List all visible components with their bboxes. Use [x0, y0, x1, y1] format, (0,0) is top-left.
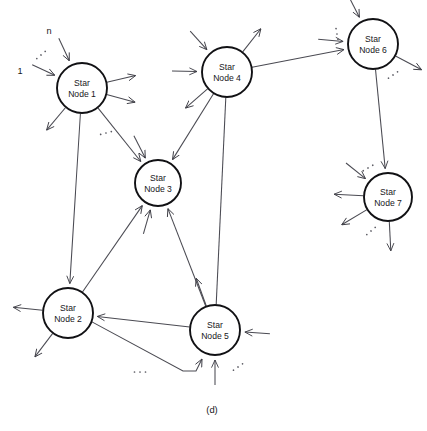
edge-node5-node2	[97, 316, 189, 327]
ellipsis-dot	[237, 366, 239, 368]
star-node-5[interactable]: StarNode 5	[190, 305, 240, 355]
ellipsis-dot	[396, 71, 398, 73]
stub-node3-in-s1	[143, 210, 150, 234]
star-node-4[interactable]: StarNode 4	[202, 47, 252, 97]
ellipsis-dot	[370, 230, 372, 232]
figure-caption: (d)	[206, 404, 217, 415]
ellipsis-dot	[139, 371, 141, 373]
ellipsis-dot	[110, 131, 112, 133]
ellipsis-node5-out	[232, 363, 243, 372]
ellipsis-dot	[40, 54, 42, 56]
star-node-1[interactable]: StarNode 1	[57, 63, 107, 113]
stub-node4-in-w	[172, 71, 197, 72]
ellipsis-dot	[335, 28, 337, 30]
edge-node6-node7	[376, 69, 386, 168]
port-label-layer: n1	[17, 26, 51, 76]
edge-node2-node5	[92, 322, 203, 371]
stub-node2-out-sw	[35, 333, 53, 357]
node-label-line2: Node 1	[68, 89, 96, 99]
ellipsis-node6-out	[387, 71, 398, 80]
node-label-line2: Node 5	[201, 331, 229, 341]
node-label-line2: Node 6	[359, 45, 387, 55]
edge-node5-node4	[216, 98, 226, 305]
node-layer: StarNode 1StarNode 2StarNode 3StarNode 4…	[43, 19, 412, 355]
node-label-line2: Node 4	[213, 73, 241, 83]
stub-node6-in-nw	[348, 0, 359, 17]
ellipsis-dot	[36, 57, 38, 59]
stub-node2-out-w	[13, 307, 42, 310]
stub-node7-out-w	[334, 194, 363, 196]
ellipsis-dot	[145, 371, 147, 373]
port-1-label: 1	[17, 66, 22, 76]
diagram-canvas: StarNode 1StarNode 2StarNode 3StarNode 4…	[0, 0, 427, 431]
ellipsis-node1-in	[36, 50, 47, 59]
ellipsis-node7-in	[362, 164, 374, 172]
stub-node4-out-sw	[186, 89, 208, 108]
stub-node1-out-e2	[107, 76, 136, 83]
ellipsis-dot	[241, 363, 243, 365]
ellipsis-dot	[232, 369, 234, 371]
ellipsis-dot	[362, 170, 364, 172]
ellipsis-dot	[392, 74, 394, 76]
edge-node4-node6	[252, 50, 344, 68]
node-label-line1: Star	[60, 303, 76, 313]
stub-node5-in-e	[245, 332, 270, 334]
node-label-line1: Star	[219, 62, 235, 72]
edge-node4-node3	[173, 94, 214, 160]
stub-node5-out-nw	[196, 278, 206, 306]
ellipsis-dot	[337, 38, 339, 40]
stub-node6-out-se	[396, 56, 422, 70]
edge-node1-node3	[98, 108, 141, 162]
stub-node4-out-ne	[243, 29, 261, 52]
stub-node1-in-n	[59, 38, 70, 61]
stub-node1-out-e1	[107, 95, 136, 103]
ellipsis-node2-node5	[134, 371, 147, 373]
star-node-2[interactable]: StarNode 2	[43, 288, 93, 338]
ellipsis-dot	[367, 167, 369, 169]
edge-node5-node3	[168, 209, 206, 307]
stub-node4-in-nw	[190, 31, 207, 50]
ellipsis-dot	[387, 77, 389, 79]
ellipsis-node1-out	[100, 131, 113, 136]
node-label-line2: Node 2	[54, 314, 82, 324]
ellipsis-node7-out	[366, 226, 377, 235]
node-label-line2: Node 7	[374, 198, 402, 208]
ellipsis-dot	[336, 33, 338, 35]
star-node-7[interactable]: StarNode 7	[364, 173, 412, 221]
node-label-line1: Star	[74, 78, 90, 88]
edge-node1-node2	[70, 114, 81, 284]
node-label-line1: Star	[150, 173, 166, 183]
ellipsis-dot	[134, 371, 136, 373]
star-network-diagram: StarNode 1StarNode 2StarNode 3StarNode 4…	[0, 0, 427, 431]
stub-node1-out-sw	[47, 108, 66, 131]
node-label-line2: Node 3	[144, 184, 172, 194]
node-label-line1: Star	[365, 34, 381, 44]
edge-node2-node3	[83, 206, 143, 292]
ellipsis-dot	[100, 133, 102, 135]
stub-node6-in-w	[318, 39, 343, 41]
node-label-line1: Star	[380, 187, 396, 197]
stub-node7-out-sw	[342, 210, 367, 225]
port-n-label: n	[46, 26, 51, 36]
node-label-line1: Star	[207, 320, 223, 330]
ellipsis-dot	[374, 226, 376, 228]
ellipsis-dot	[105, 132, 107, 134]
star-node-6[interactable]: StarNode 6	[348, 19, 398, 69]
star-node-3[interactable]: StarNode 3	[135, 160, 181, 206]
stub-node1-in-1	[32, 65, 55, 76]
ellipsis-dot	[44, 50, 46, 52]
stub-node7-out-s	[389, 222, 391, 251]
ellipsis-node4-node6	[335, 28, 339, 41]
ellipsis-dot	[366, 233, 368, 235]
ellipsis-dot	[372, 164, 374, 166]
